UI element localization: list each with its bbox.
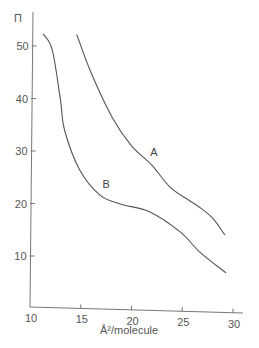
curves: AB [43,34,226,273]
y-tick-label: 20 [15,198,27,210]
x-tick-label: 30 [228,318,240,330]
curve-b [43,34,226,273]
x-tick-label: 25 [177,316,189,328]
x-axis-line [30,307,243,313]
y-tick-label: 40 [16,93,28,105]
axes: 10203040501015202530 [14,12,243,330]
curve-label-b: B [102,178,109,190]
y-tick-label: 30 [15,145,27,157]
curve-a [77,34,225,235]
y-axis-symbol: Π [14,12,22,24]
y-tick-label: 50 [16,40,28,52]
y-axis-line [30,12,33,307]
x-tick-label: 10 [25,312,37,324]
y-tick-label: 10 [14,250,26,262]
x-axis-title: Å²/molecule [100,324,158,336]
x-tick-label: 15 [76,313,88,325]
pressure-area-chart: 10203040501015202530 AB Π Å²/molecule [0,0,259,348]
curve-label-a: A [150,146,158,158]
